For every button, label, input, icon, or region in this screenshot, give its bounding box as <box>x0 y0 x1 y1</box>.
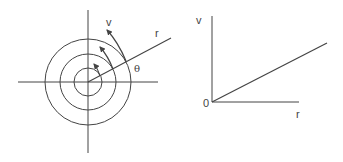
radius-label: r <box>155 28 159 39</box>
angle-label: θ <box>134 64 140 74</box>
diagram-canvas <box>0 0 343 162</box>
linear-plot-line <box>212 43 327 102</box>
graph-x-label: r <box>296 109 300 120</box>
circular-motion-figure <box>18 10 171 153</box>
graph-y-label: v <box>196 15 202 26</box>
v-vs-r-graph <box>212 16 327 102</box>
velocity-label: v <box>106 17 112 28</box>
graph-origin-label: 0 <box>203 98 209 109</box>
